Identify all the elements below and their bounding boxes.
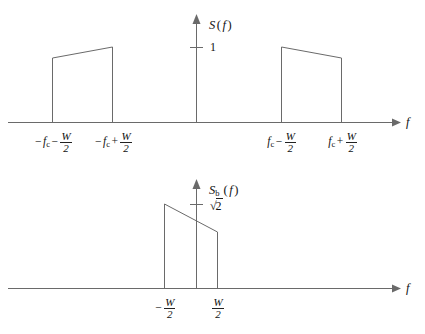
- bottom-y-axis-label: Sb (f): [209, 184, 240, 197]
- top-y-axis-label: S(f): [209, 19, 233, 32]
- bottom-x-axis-label: f: [406, 282, 409, 295]
- spectral-density-figure: S(f) 1 f −fc−W2 −fc+W2 fc−W2 fc+W2 Sb (f…: [0, 0, 425, 334]
- top-ytick-label-1: 1: [210, 41, 216, 53]
- top-x-axis-arrowhead: [392, 119, 401, 127]
- top-x-axis-label: f: [406, 116, 409, 129]
- top-xtick-label-fc-plus-w2: fc+W2: [310, 130, 376, 154]
- bottom-y-axis-arrowhead: [193, 179, 201, 189]
- top-xtick-label-neg-fc-plus-w2: −fc+W2: [76, 130, 150, 154]
- bottom-xtick-label-w2: W2: [198, 296, 238, 320]
- pulse-positive-band: [282, 47, 342, 123]
- top-xtick-label-fc-minus-w2: fc−W2: [249, 130, 315, 154]
- top-y-axis-arrowhead: [193, 14, 201, 24]
- bottom-xtick-label-neg-w2: −W2: [140, 296, 190, 320]
- pulse-baseband: [165, 204, 218, 289]
- pulse-negative-band: [53, 47, 113, 123]
- bottom-x-axis-arrowhead: [392, 285, 401, 293]
- bottom-ytick-label-sqrt2: √2: [210, 197, 223, 213]
